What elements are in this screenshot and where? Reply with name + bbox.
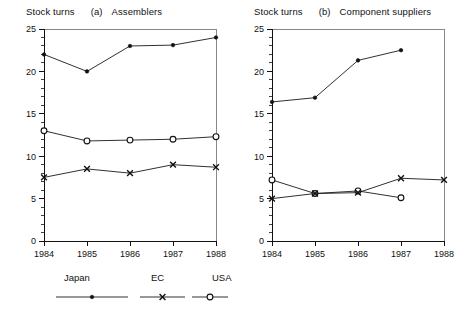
chart-a-series-ec [41, 162, 219, 181]
chart-a-ytick-20: 20 [26, 67, 36, 77]
chart-b-ytick-25: 25 [254, 24, 264, 34]
chart-b-ytick-0: 0 [259, 236, 264, 246]
chart-b-xtick-1986: 1986 [348, 249, 368, 259]
chart-a-xtick-1987: 1987 [163, 249, 183, 259]
chart-b-ytick-5: 5 [259, 194, 264, 204]
legend-item-ec [140, 294, 185, 300]
chart-b-xtick-1988: 1988 [434, 249, 454, 259]
chart-a-ytick-10: 10 [26, 152, 36, 162]
legend-markers [0, 287, 228, 311]
chart-a-ytick-0: 0 [31, 236, 36, 246]
chart-a-series-japan [42, 36, 218, 74]
chart-b-plot: 051015202519841985198619871988 [228, 0, 456, 272]
chart-a-xtick-1984: 1984 [34, 249, 54, 259]
chart-a-plot: 051015202519841985198619871988 [0, 0, 228, 272]
legend-label-usa: USA [212, 272, 232, 283]
chart-a-ytick-25: 25 [26, 24, 36, 34]
chart-a-xtick-1985: 1985 [77, 249, 97, 259]
chart-b-ytick-15: 15 [254, 109, 264, 119]
chart-b-ytick-10: 10 [254, 152, 264, 162]
chart-a-ytick-5: 5 [31, 194, 36, 204]
legend-label-ec: EC [151, 272, 164, 283]
chart-b-ytick-20: 20 [254, 67, 264, 77]
legend-item-japan [56, 295, 128, 299]
chart-b-xtick-1985: 1985 [305, 249, 325, 259]
chart-b-series-japan [270, 48, 403, 103]
chart-a-ytick-15: 15 [26, 109, 36, 119]
chart-a-xtick-1986: 1986 [120, 249, 140, 259]
chart-panel-assemblers: Stock turns(a)Assemblers 051015202519841… [0, 0, 228, 311]
chart-b-xtick-1984: 1984 [262, 249, 282, 259]
chart-a-xtick-1988: 1988 [206, 249, 226, 259]
chart-panel-component-suppliers: Stock turns(b)Component suppliers 051015… [228, 0, 456, 311]
figure-legend: Japan EC USA [0, 272, 228, 311]
legend-label-japan: Japan [64, 272, 90, 283]
chart-a-series-usa [41, 128, 219, 144]
legend-labels: Japan EC USA [0, 272, 228, 287]
chart-b-series-usa [269, 177, 404, 201]
chart-b-xtick-1987: 1987 [391, 249, 411, 259]
legend-item-usa [192, 294, 228, 300]
